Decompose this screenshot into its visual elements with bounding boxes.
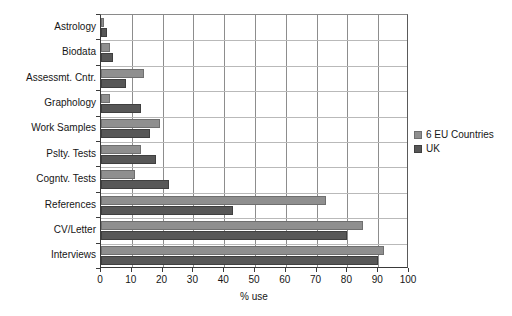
bar-uk [101, 231, 347, 240]
bar-eu-countries [101, 145, 141, 154]
y-axis-tick-label: Interviews [0, 249, 96, 260]
legend-item: UK [414, 142, 494, 156]
bar-chart: AstrologyBiodataAssessmt. Cntr.Grapholog… [0, 0, 512, 316]
bar-uk [101, 79, 126, 88]
x-axis-tick-mark [285, 268, 286, 272]
x-axis-tick-label: 40 [208, 274, 238, 286]
y-axis-labels: AstrologyBiodataAssessmt. Cntr.Grapholog… [0, 14, 96, 268]
bar-eu-countries [101, 221, 363, 230]
gridline-horizontal [101, 218, 407, 219]
y-axis-tick-label: Assessmt. Cntr. [0, 72, 96, 83]
bar-group [101, 69, 407, 89]
gridline-horizontal [101, 167, 407, 168]
bar-group [101, 170, 407, 190]
gridline-horizontal [101, 244, 407, 245]
x-axis-tick-mark [408, 268, 409, 272]
bar-eu-countries [101, 246, 384, 255]
y-axis-tick-label: Astrology [0, 21, 96, 32]
x-axis-tick-label: 100 [393, 274, 423, 286]
legend-label: 6 EU Countries [426, 128, 494, 142]
bar-group [101, 221, 407, 241]
bar-uk [101, 129, 150, 138]
y-axis-tick-label: Pslty. Tests [0, 148, 96, 159]
y-axis-tick-label: Biodata [0, 46, 96, 57]
x-axis-title: % use [100, 291, 408, 302]
y-axis-tick-label: CV/Letter [0, 224, 96, 235]
x-axis-tick-mark [192, 268, 193, 272]
y-axis-tick-label: References [0, 199, 96, 210]
legend-swatch-icon [414, 145, 422, 153]
chart-legend: 6 EU CountriesUK [414, 128, 494, 156]
bar-uk [101, 104, 141, 113]
gridline-horizontal [101, 117, 407, 118]
gridline-horizontal [101, 40, 407, 41]
gridline-horizontal [101, 193, 407, 194]
x-axis-tick-mark [377, 268, 378, 272]
y-axis-tick-label: Graphology [0, 97, 96, 108]
bar-group [101, 18, 407, 38]
x-axis-tick-mark [131, 268, 132, 272]
bar-eu-countries [101, 18, 104, 27]
bar-group [101, 94, 407, 114]
bar-uk [101, 155, 156, 164]
bar-group [101, 43, 407, 63]
bar-uk [101, 256, 378, 265]
legend-swatch-icon [414, 131, 422, 139]
x-axis-tick-mark [223, 268, 224, 272]
plot-area [100, 14, 408, 268]
x-axis-tick-label: 20 [147, 274, 177, 286]
x-axis-tick-label: 50 [239, 274, 269, 286]
bar-uk [101, 53, 113, 62]
x-axis-tick-mark [162, 268, 163, 272]
bar-eu-countries [101, 43, 110, 52]
y-axis-tick-label: Cogntv. Tests [0, 173, 96, 184]
x-axis-tick-label: 90 [362, 274, 392, 286]
bar-uk [101, 180, 169, 189]
bar-group [101, 119, 407, 139]
gridline-horizontal [101, 91, 407, 92]
bar-group [101, 145, 407, 165]
x-axis-tick-label: 10 [116, 274, 146, 286]
legend-item: 6 EU Countries [414, 128, 494, 142]
x-axis-tick-mark [346, 268, 347, 272]
x-axis-tick-mark [100, 268, 101, 272]
legend-label: UK [426, 142, 440, 156]
x-axis-tick-label: 30 [177, 274, 207, 286]
y-axis-tick-label: Work Samples [0, 122, 96, 133]
bar-eu-countries [101, 196, 326, 205]
bar-eu-countries [101, 119, 160, 128]
bar-eu-countries [101, 170, 135, 179]
x-axis-tick-label: 80 [331, 274, 361, 286]
gridline-horizontal [101, 142, 407, 143]
x-axis-tick-mark [316, 268, 317, 272]
x-axis-tick-label: 0 [85, 274, 115, 286]
x-axis-tick-label: 70 [301, 274, 331, 286]
bar-uk [101, 28, 107, 37]
bar-group [101, 196, 407, 216]
bar-eu-countries [101, 94, 110, 103]
gridline-horizontal [101, 66, 407, 67]
x-axis-tick-label: 60 [270, 274, 300, 286]
bar-uk [101, 206, 233, 215]
bar-group [101, 246, 407, 266]
x-axis-tick-mark [254, 268, 255, 272]
bar-eu-countries [101, 69, 144, 78]
